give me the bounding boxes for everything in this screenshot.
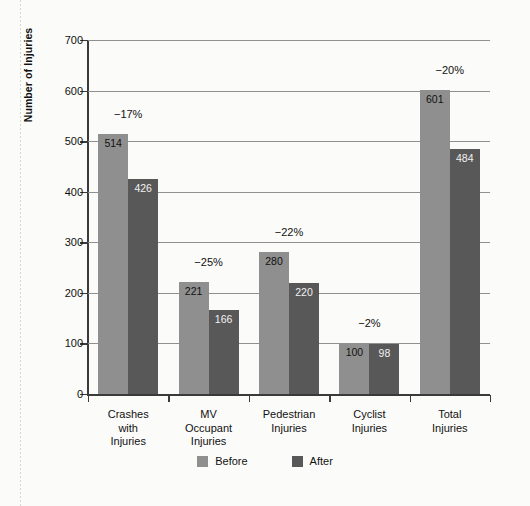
bar-value-label: 426 (128, 182, 158, 195)
bar-after: 426 (128, 179, 158, 394)
bar-value-label: 514 (98, 137, 128, 150)
bar-after: 166 (209, 310, 239, 394)
bar-before: 601 (420, 90, 450, 394)
legend-label: After (310, 455, 333, 467)
bar-before: 100 (339, 343, 369, 394)
y-axis-title: Number of Injuries (22, 0, 38, 160)
percent-change-label: −25% (194, 256, 222, 268)
x-tick-mark (410, 395, 411, 402)
legend-swatch-icon (197, 456, 208, 467)
gridline (88, 40, 490, 41)
y-tick-label: 700 (65, 34, 83, 46)
percent-change-label: −20% (436, 64, 464, 76)
x-tick-mark (88, 395, 89, 402)
x-tick-mark (490, 395, 491, 402)
x-tick-mark (168, 395, 169, 402)
plot-area: 7006005004003002001000 51442622116628022… (88, 40, 490, 394)
bar-value-label: 98 (369, 347, 399, 360)
y-tick-label: 300 (65, 236, 83, 248)
bar-value-label: 220 (289, 286, 319, 299)
category-label-line: Injuries (398, 422, 502, 436)
legend-label: Before (215, 455, 247, 467)
percent-change-label: −2% (358, 317, 380, 329)
bar-after: 484 (450, 149, 480, 394)
y-tick-label: 600 (65, 85, 83, 97)
category-label-line: Total (398, 408, 502, 422)
category-label: TotalInjuries (398, 408, 502, 435)
page-edge-artifact (20, 0, 21, 506)
bar-before: 280 (259, 252, 289, 394)
bar-value-label: 484 (450, 152, 480, 165)
legend-swatch-icon (292, 456, 303, 467)
bar-value-label: 601 (420, 93, 450, 106)
y-tick-label: 200 (65, 287, 83, 299)
bar-value-label: 280 (259, 255, 289, 268)
percent-change-label: −17% (114, 108, 142, 120)
x-tick-mark (249, 395, 250, 402)
bar-before: 221 (179, 282, 209, 394)
percent-change-label: −22% (275, 226, 303, 238)
y-tick-label: 400 (65, 186, 83, 198)
chart-figure: Number of Injuries 700600500400300200100… (0, 0, 530, 506)
bar-value-label: 100 (339, 346, 369, 359)
chart-legend: BeforeAfter (0, 455, 530, 467)
bar-after: 98 (369, 344, 399, 394)
x-axis-line (87, 394, 490, 396)
y-tick-label: 500 (65, 135, 83, 147)
legend-item[interactable]: Before (197, 455, 247, 467)
legend-item[interactable]: After (292, 455, 333, 467)
y-axis-line (87, 40, 89, 395)
bar-after: 220 (289, 283, 319, 394)
bar-value-label: 221 (179, 285, 209, 298)
bar-value-label: 166 (209, 313, 239, 326)
x-tick-mark (329, 395, 330, 402)
y-tick-label: 100 (65, 337, 83, 349)
category-label-line: Injuries (157, 435, 261, 449)
bar-before: 514 (98, 134, 128, 394)
y-tick-label: 0 (77, 388, 83, 400)
